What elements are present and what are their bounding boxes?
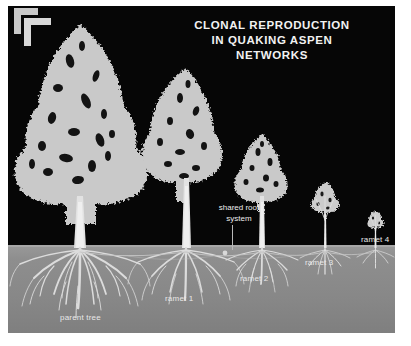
- shared-root-annotation-line-2: system: [201, 213, 277, 224]
- shared-root-node: [223, 251, 228, 256]
- label-ramet-3: ramet 3: [305, 258, 334, 267]
- parent-tree: [10, 24, 150, 318]
- shared-root-leader-line: [232, 225, 233, 250]
- ramet-1-tree: [128, 68, 244, 304]
- shared-root-annotation: shared root system: [201, 202, 277, 224]
- label-ramet-2: ramet 2: [240, 274, 269, 283]
- bracket-front-horizontal-arm: [24, 18, 51, 25]
- title-line-1: CLONAL REPRODUCTION: [167, 18, 377, 33]
- title-line-2: IN QUAKING ASPEN: [167, 33, 377, 48]
- corner-bracket-icon: [12, 8, 58, 52]
- bracket-back-horizontal-arm: [14, 8, 38, 15]
- label-ramet-4: ramet 4: [361, 235, 390, 244]
- title-line-3: NETWORKS: [167, 48, 377, 63]
- illustration-panel: CLONAL REPRODUCTION IN QUAKING ASPEN NET…: [8, 6, 395, 333]
- label-parent-tree: parent tree: [60, 313, 101, 322]
- figure-title: CLONAL REPRODUCTION IN QUAKING ASPEN NET…: [167, 18, 377, 63]
- figure-container: CLONAL REPRODUCTION IN QUAKING ASPEN NET…: [0, 0, 411, 346]
- label-ramet-1: ramet 1: [165, 294, 194, 303]
- shared-root-annotation-line-1: shared root: [201, 202, 277, 213]
